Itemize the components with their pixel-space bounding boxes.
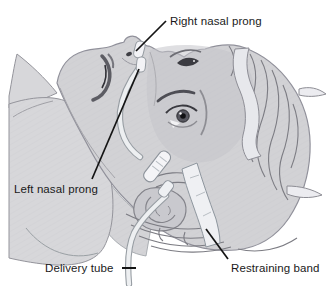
delivery-tube-label: Delivery tube [45, 262, 113, 275]
medical-illustration-figure: Right nasal prong Left nasal prong Deliv… [0, 0, 328, 286]
illustration-canvas [0, 0, 328, 286]
left-nasal-prong-label: Left nasal prong [14, 183, 98, 196]
restraining-band-label: Restraining band [231, 262, 320, 275]
right-nasal-prong-label: Right nasal prong [170, 15, 262, 28]
left-nasal-prong [136, 57, 147, 73]
